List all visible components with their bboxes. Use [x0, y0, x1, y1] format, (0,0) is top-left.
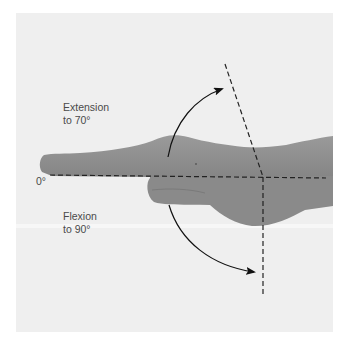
hand-shape [40, 135, 333, 178]
extension-label-line1: Extension [63, 101, 109, 114]
flexion-label-line2: to 90° [63, 223, 97, 236]
flexion-label: Flexion to 90° [63, 210, 97, 236]
wrist-rom-figure: Extension to 70° Flexion to 90° 0° [0, 0, 350, 339]
flexion-label-line1: Flexion [63, 210, 97, 223]
skin-mark [195, 163, 197, 165]
neutral-zero-label: 0° [36, 175, 46, 188]
extension-label-line2: to 70° [63, 114, 109, 127]
hand-illustration [0, 0, 350, 339]
extension-label: Extension to 70° [63, 101, 109, 127]
thumb-shape [147, 176, 333, 226]
